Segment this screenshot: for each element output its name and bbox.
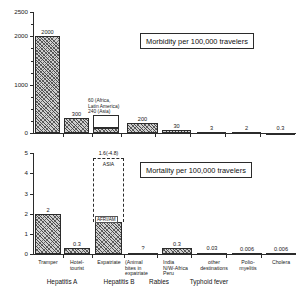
mortality-bar-india-nw-africa-peru bbox=[162, 248, 192, 254]
mortality-bar-cholera bbox=[266, 253, 296, 255]
mortality-xtick bbox=[92, 255, 93, 258]
morbidity-ytick-1000 bbox=[30, 85, 34, 86]
mortality-ytick-2 bbox=[30, 214, 34, 215]
morbidity-bar-cholera bbox=[266, 133, 295, 135]
morbidity-ytick-minor bbox=[31, 48, 33, 49]
morbidity-value-label: 300 bbox=[64, 111, 89, 117]
mortality-bar-other-destinations bbox=[197, 253, 227, 255]
morbidity-ytick-minor bbox=[31, 109, 33, 110]
mortality-afri-am-label: AFRI/AM bbox=[95, 216, 118, 223]
mortality-value-label: 0.3 bbox=[64, 241, 90, 247]
morbidity-ytick-label: 2500 bbox=[2, 9, 28, 15]
mortality-bar-animal-bites bbox=[128, 253, 158, 255]
morbidity-value-label: 200 bbox=[127, 116, 158, 122]
morbidity-bar-india-nw-africa-peru bbox=[162, 130, 191, 133]
morbidity-xtick bbox=[225, 134, 226, 137]
mortality-ytick-4 bbox=[30, 173, 34, 174]
morbidity-xtick bbox=[260, 134, 261, 137]
mortality-ytick-5 bbox=[30, 153, 34, 154]
mortality-value-label: ? bbox=[128, 245, 158, 251]
mortality-bar-expatriate bbox=[95, 222, 122, 254]
morbidity-ytick-0 bbox=[30, 133, 34, 134]
mortality-xtick bbox=[124, 255, 125, 258]
mortality-chart: 5 4 3 2 1 0 2 0.3 ? 0.3 0.03 0.006 0.006 bbox=[0, 145, 302, 301]
morbidity-xtick bbox=[155, 134, 156, 137]
morbidity-ytick-minor bbox=[31, 61, 33, 62]
morbidity-value-label: 30 bbox=[162, 123, 191, 129]
morbidity-bar-hotel-tourist bbox=[64, 118, 89, 133]
group-label-typhoid-fever: Typhoid fever bbox=[178, 278, 240, 285]
mortality-title: Mortality per 100,000 travelers bbox=[140, 162, 252, 178]
morbidity-title: Morbidity per 100,000 travelers bbox=[140, 33, 254, 49]
bracket-left bbox=[93, 158, 94, 222]
morbidity-ytick-label: 2000 bbox=[2, 33, 28, 39]
morbidity-ytick-minor bbox=[31, 73, 33, 74]
bracket-right bbox=[123, 158, 124, 222]
mortality-ytick-label: 3 bbox=[6, 191, 28, 197]
bracket-top bbox=[93, 158, 124, 159]
category-label-animal-bites-3: expatriate bbox=[125, 271, 165, 277]
mortality-value-label: 0.006 bbox=[266, 246, 296, 252]
category-label-other-destinations-2: destinations bbox=[195, 266, 233, 272]
morbidity-value-label: 0.3 bbox=[266, 125, 295, 131]
category-label-hotel-tourist-2: tourist bbox=[57, 266, 97, 272]
morbidity-xtick bbox=[190, 134, 191, 137]
morbidity-value-label: 2 bbox=[232, 125, 261, 131]
morbidity-xtick bbox=[92, 134, 93, 137]
category-label-india-3: Peru bbox=[163, 271, 199, 277]
category-label-expatriate: Expatriate bbox=[88, 260, 130, 266]
morbidity-ytick-minor bbox=[31, 24, 33, 25]
morbidity-ytick-label: 0 bbox=[2, 130, 28, 136]
group-label-hepatitis-a: Hepatitis A bbox=[33, 278, 91, 285]
morbidity-bar-expatriate-upper-asia bbox=[93, 115, 119, 128]
morbidity-bar-other-destinations bbox=[197, 132, 226, 134]
mortality-value-label: 0.03 bbox=[197, 245, 227, 251]
mortality-bar-poliomyelitis bbox=[232, 253, 262, 255]
mortality-value-label: 2 bbox=[35, 207, 61, 213]
morbidity-bar-expatriate bbox=[93, 128, 119, 133]
mortality-bar-hotel-tourist bbox=[64, 248, 90, 254]
category-label-cholera: Cholera bbox=[263, 260, 299, 266]
mortality-range-bracket bbox=[93, 158, 124, 222]
morbidity-xtick bbox=[63, 134, 64, 137]
mortality-asia-label: ASIA bbox=[93, 162, 124, 167]
category-label-poliomyelitis-2: myelitis bbox=[232, 266, 264, 272]
mortality-ytick-label: 2 bbox=[6, 211, 28, 217]
mortality-ytick-label: 4 bbox=[6, 170, 28, 176]
group-label-hepatitis-b: Hepatitis B bbox=[93, 278, 145, 285]
mortality-xtick bbox=[157, 255, 158, 258]
mortality-value-label: 0.006 bbox=[232, 246, 262, 252]
mortality-value-label: 0.3 bbox=[162, 241, 192, 247]
morbidity-y-axis bbox=[33, 12, 34, 134]
group-label-rabies: Rabies bbox=[143, 278, 175, 285]
morbidity-ytick-2000 bbox=[30, 36, 34, 37]
morbidity-value-label: 3 bbox=[197, 125, 226, 131]
mortality-range-label: 1.6(-4.8) bbox=[93, 151, 124, 157]
mortality-xtick bbox=[261, 255, 262, 258]
mortality-xtick bbox=[63, 255, 64, 258]
morbidity-ytick-2500 bbox=[30, 12, 34, 13]
morbidity-bar-poliomyelitis bbox=[232, 132, 261, 134]
mortality-ytick-3 bbox=[30, 194, 34, 195]
mortality-ytick-label: 1 bbox=[6, 231, 28, 237]
mortality-xtick bbox=[191, 255, 192, 258]
mortality-ytick-1 bbox=[30, 234, 34, 235]
mortality-ytick-label: 0 bbox=[6, 251, 28, 257]
morbidity-bar-tramper bbox=[35, 36, 60, 133]
morbidity-bar-animal-bites bbox=[127, 123, 158, 133]
figure-canvas: 2500 2000 1000 0 2000 300 200 30 3 2 0.3… bbox=[0, 0, 302, 301]
morbidity-xtick bbox=[121, 134, 122, 137]
mortality-bar-tramper bbox=[35, 214, 61, 254]
morbidity-value-label: 2000 bbox=[35, 29, 60, 35]
morbidity-ytick-label: 1000 bbox=[2, 82, 28, 88]
morbidity-annotation-line3: 240 (Asia) bbox=[88, 109, 110, 114]
mortality-xtick bbox=[226, 255, 227, 258]
morbidity-ytick-minor bbox=[31, 97, 33, 98]
morbidity-ytick-minor bbox=[31, 121, 33, 122]
mortality-ytick-0 bbox=[30, 254, 34, 255]
mortality-y-axis bbox=[33, 153, 34, 255]
mortality-ytick-label: 5 bbox=[6, 150, 28, 156]
morbidity-chart: 2500 2000 1000 0 2000 300 200 30 3 2 0.3… bbox=[0, 0, 302, 145]
